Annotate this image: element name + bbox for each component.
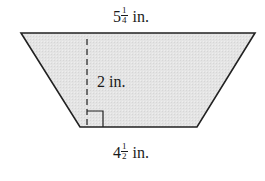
trapezoid-shape [21, 33, 255, 127]
trapezoid-figure: 5 1 4 in. 2 in. 4 1 2 in. [0, 0, 265, 181]
bottom-base-fraction: 1 2 [121, 142, 128, 161]
top-base-unit: in. [133, 9, 149, 25]
top-base-whole: 5 [113, 9, 121, 25]
top-base-label: 5 1 4 in. [113, 7, 149, 26]
height-label: 2 in. [97, 74, 125, 90]
bottom-base-label: 4 1 2 in. [113, 143, 149, 162]
top-base-fraction: 1 4 [121, 6, 128, 25]
top-base-denominator: 4 [121, 16, 128, 25]
bottom-base-unit: in. [133, 145, 149, 161]
bottom-base-denominator: 2 [121, 152, 128, 161]
bottom-base-whole: 4 [113, 145, 121, 161]
